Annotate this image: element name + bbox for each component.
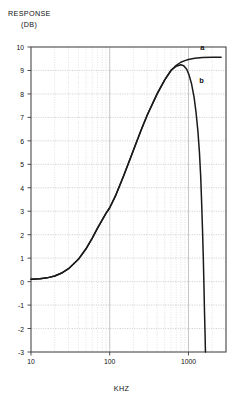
y-tick-label: 3 (6, 208, 24, 215)
data-curves (31, 57, 221, 352)
axis-ticks (28, 47, 189, 356)
plot-area (0, 0, 243, 408)
plot-frame (31, 47, 226, 352)
frequency-response-chart: RESPONSE (DB) 109876543210-1-2-3 1010010… (0, 0, 243, 408)
y-tick-label: 10 (6, 44, 24, 51)
curve-b (31, 65, 205, 352)
y-tick-label: 2 (6, 231, 24, 238)
x-tick-label: 100 (95, 358, 125, 365)
y-tick-label: 9 (6, 67, 24, 74)
y-tick-label: 0 (6, 278, 24, 285)
y-tick-label: 7 (6, 114, 24, 121)
major-gridlines (31, 47, 226, 352)
y-tick-label: 6 (6, 137, 24, 144)
x-axis-title: KHZ (0, 384, 243, 393)
y-tick-label: -3 (6, 349, 24, 356)
curve-label-b: b (199, 76, 204, 85)
y-tick-label: 1 (6, 255, 24, 262)
y-tick-label: 8 (6, 90, 24, 97)
x-tick-label: 10 (16, 358, 46, 365)
y-tick-label: 5 (6, 161, 24, 168)
y-tick-label: 4 (6, 184, 24, 191)
x-tick-label: 1000 (173, 358, 203, 365)
y-tick-label: -2 (6, 325, 24, 332)
curve-label-a: a (200, 43, 204, 52)
minor-gridlines (55, 47, 226, 352)
y-tick-label: -1 (6, 302, 24, 309)
